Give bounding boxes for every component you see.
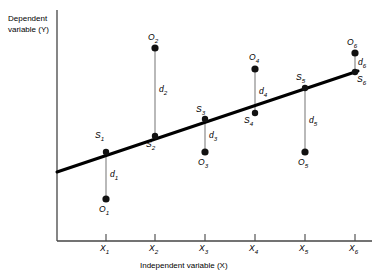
label-s1: S1 (95, 131, 104, 142)
scatter-plot-svg (0, 0, 375, 277)
label-s3: S3 (196, 105, 205, 116)
observed-point-3 (201, 148, 208, 155)
x-tick-label-3: X3 (199, 244, 208, 255)
data-points (102, 44, 358, 202)
x-axis-title: Independent variable (X) (140, 261, 228, 272)
y-axis-title: Dependent variable (Y) (8, 14, 49, 36)
label-s2: S2 (146, 140, 155, 151)
label-o3: O3 (198, 158, 208, 169)
x-tick-label-4: X4 (249, 244, 258, 255)
label-s6: S6 (357, 75, 366, 86)
label-o6: O6 (347, 38, 357, 49)
label-o2: O2 (148, 33, 158, 44)
label-d2: d2 (159, 85, 167, 96)
x-tick-label-5: X5 (299, 244, 308, 255)
observed-point-4 (251, 65, 258, 72)
predicted-point-3 (202, 116, 208, 122)
x-axis-ticks (106, 234, 355, 241)
observed-point-1 (102, 195, 109, 202)
x-tick-label-6: X6 (349, 244, 358, 255)
label-s5: S5 (296, 73, 305, 84)
x-tick-label-1: X1 (100, 244, 109, 255)
label-o5: O5 (298, 158, 308, 169)
y-axis-title-line2: variable (Y) (8, 25, 49, 34)
predicted-point-2 (152, 133, 158, 139)
observed-point-6 (351, 49, 358, 56)
predicted-point-1 (103, 149, 109, 155)
label-o1: O1 (99, 205, 109, 216)
predicted-point-5 (302, 85, 308, 91)
label-d4: d4 (259, 87, 267, 98)
observed-point-2 (151, 44, 158, 51)
label-s4: S4 (244, 116, 253, 127)
residual-segments (106, 48, 355, 199)
label-d1: d1 (110, 170, 118, 181)
x-tick-label-2: X2 (149, 244, 158, 255)
figure-canvas: Dependent variable (Y) Independent varia… (0, 0, 375, 277)
label-o4: O4 (249, 53, 259, 64)
label-d5: d5 (309, 116, 317, 127)
label-d3: d3 (209, 131, 217, 142)
y-axis-title-line1: Dependent (8, 14, 47, 23)
label-d6: d6 (358, 58, 366, 69)
observed-point-5 (301, 148, 308, 155)
